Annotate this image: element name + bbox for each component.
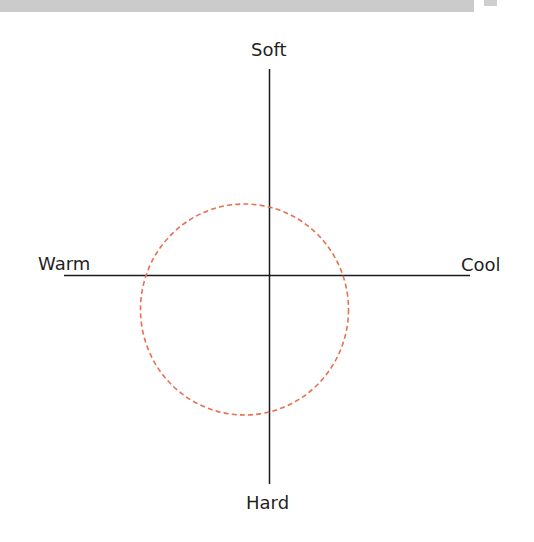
axis-label-right: Cool xyxy=(461,256,501,274)
axis-label-left: Warm xyxy=(38,255,90,273)
diagram-canvas: Soft Warm Cool Hard xyxy=(0,0,534,542)
axis-label-top: Soft xyxy=(251,41,287,59)
axis-label-bottom: Hard xyxy=(246,494,289,512)
dashed-circle xyxy=(141,204,349,415)
